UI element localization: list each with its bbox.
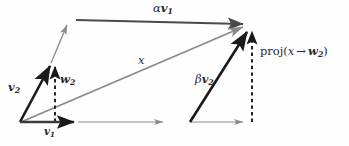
alpha-v1-arrow <box>76 20 243 24</box>
x-label: x <box>138 55 145 67</box>
parallelogram-left-side-arrow <box>51 25 67 63</box>
projection-label: proj(x→w2) <box>260 46 328 59</box>
right-arrow-icon: → <box>294 44 308 58</box>
w2-label: w2 <box>60 74 75 87</box>
beta-v2-label: βv2 <box>195 74 214 87</box>
v-symbol: v <box>8 80 15 94</box>
subscript-1: 1 <box>167 7 172 16</box>
proj-prefix: proj( <box>260 44 288 58</box>
diagram-canvas <box>0 0 349 146</box>
vector-projection-diagram: αv1 x v2 w2 v1 βv2 proj(x→w2) <box>0 0 349 146</box>
proj-suffix: ) <box>323 44 328 58</box>
subscript-2: 2 <box>208 78 213 87</box>
w-symbol: w <box>60 72 70 86</box>
w-symbol: w <box>308 44 318 58</box>
beta-symbol: β <box>195 72 202 86</box>
subscript-2: 2 <box>70 78 75 87</box>
x-symbol: x <box>138 53 145 67</box>
alpha-symbol: α <box>153 1 161 15</box>
subscript-1: 1 <box>50 130 55 139</box>
v2-label: v2 <box>8 82 20 95</box>
v1-label: v1 <box>44 126 55 138</box>
v2-arrow <box>20 66 50 122</box>
subscript-2: 2 <box>15 86 20 95</box>
alpha-v1-label: αv1 <box>153 3 173 16</box>
